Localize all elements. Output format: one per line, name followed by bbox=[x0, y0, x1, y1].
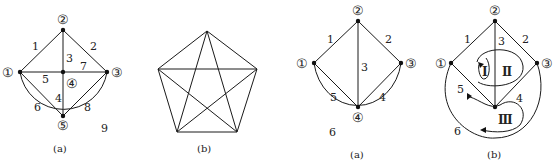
loop-1-label: Ⅰ bbox=[482, 65, 488, 79]
node-3-label: ③ bbox=[541, 56, 553, 71]
figure-1b-caption: (b) bbox=[197, 143, 211, 154]
edge-1-label: 1 bbox=[464, 33, 471, 46]
node-3-label: ③ bbox=[111, 65, 123, 80]
edge-6-label: 6 bbox=[454, 125, 461, 138]
edge-9-label: 9 bbox=[101, 122, 108, 135]
node-2-label: ② bbox=[352, 3, 364, 18]
edge-1-label: 1 bbox=[327, 33, 334, 46]
node-1-label: ① bbox=[435, 56, 447, 71]
edge-8-label: 8 bbox=[84, 101, 91, 114]
edge-5-label: 5 bbox=[330, 91, 337, 104]
edge-2-label: 2 bbox=[90, 40, 97, 53]
edge-3-label: 3 bbox=[498, 35, 505, 48]
node-3-label: ③ bbox=[405, 56, 417, 71]
node-1-label: ① bbox=[2, 65, 14, 80]
edge-2-label: 2 bbox=[385, 33, 392, 46]
node-2-label: ② bbox=[489, 3, 501, 18]
loop-3-arrowhead-icon bbox=[480, 127, 486, 133]
node-5-label: ⑤ bbox=[57, 118, 69, 133]
edge-5-label: 5 bbox=[457, 83, 464, 96]
edge-6-label: 6 bbox=[329, 126, 336, 139]
edge-4-label: 4 bbox=[516, 92, 523, 105]
figure-1a: ② ① ③ ④ ⑤ 1 2 3 4 5 6 7 8 9 (a) bbox=[2, 12, 123, 154]
edge-4-label: 4 bbox=[379, 91, 386, 104]
figure-2a-caption: (a) bbox=[350, 149, 364, 160]
loop-2-label: Ⅱ bbox=[502, 65, 512, 79]
edge-5-label: 5 bbox=[42, 73, 49, 86]
figure-2a: ② ① ③ ④ 1 2 3 4 5 6 (a) bbox=[296, 3, 417, 160]
figure-2b-caption: (b) bbox=[487, 149, 501, 160]
diagram-canvas: ② ① ③ ④ ⑤ 1 2 3 4 5 6 7 8 9 (a) (b) bbox=[0, 0, 559, 168]
edge-4-label: 4 bbox=[55, 92, 62, 105]
edge-7-label: 7 bbox=[80, 60, 87, 73]
loop-3-label: Ⅲ bbox=[498, 113, 513, 127]
edge-2-label: 2 bbox=[522, 33, 529, 46]
loop-3-start-arrowhead-icon bbox=[467, 93, 472, 100]
node-2-label: ② bbox=[57, 12, 69, 27]
figure-1a-caption: (a) bbox=[53, 143, 67, 154]
figure-1b: (b) bbox=[158, 31, 257, 154]
edge-3-label: 3 bbox=[66, 52, 73, 65]
node-4-label: ④ bbox=[352, 110, 364, 125]
node-1-label: ① bbox=[296, 56, 308, 71]
edge-3-label: 3 bbox=[361, 61, 368, 74]
edge-6-label: 6 bbox=[34, 101, 41, 114]
figure-2b: ② ① ③ 1 2 3 4 5 6 Ⅰ Ⅱ Ⅲ (b) bbox=[435, 3, 553, 160]
edge-1-label: 1 bbox=[32, 40, 39, 53]
node-4-label: ④ bbox=[66, 76, 78, 91]
